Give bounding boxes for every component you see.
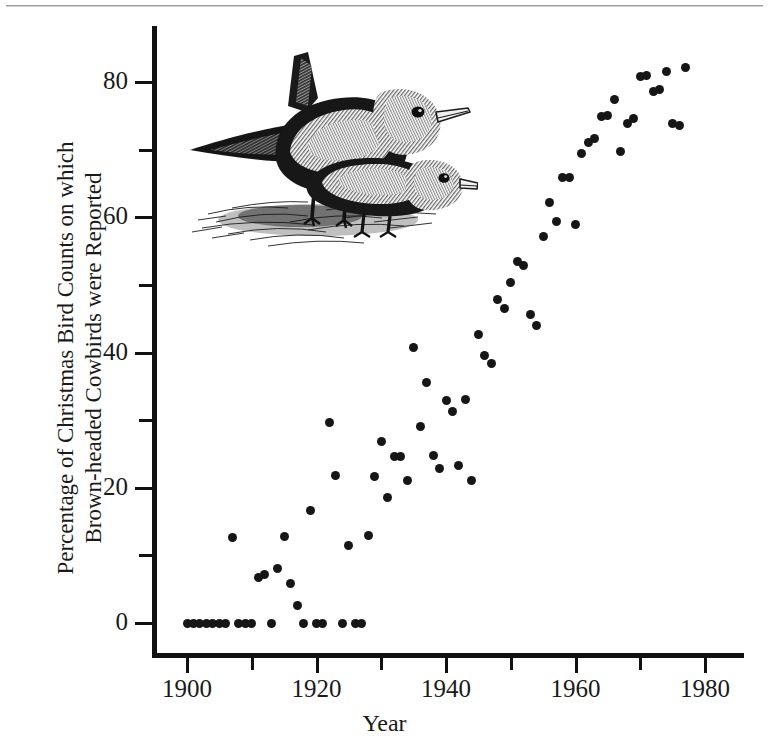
scatter-point: [532, 321, 541, 330]
scatter-point: [461, 395, 470, 404]
x-tick-label: 1980: [660, 676, 750, 702]
x-tick-major: [575, 658, 578, 673]
x-tick-minor: [510, 658, 513, 670]
x-tick-major: [186, 658, 189, 673]
x-axis-line: [152, 653, 744, 658]
scatter-point: [577, 149, 586, 158]
scatter-point: [642, 71, 651, 80]
y-tick-minor: [139, 284, 152, 287]
figure-page: 020406080 19001920194019601980 Percentag…: [0, 0, 769, 748]
scatter-point: [344, 541, 353, 550]
scatter-point: [675, 121, 684, 130]
scatter-point: [681, 63, 690, 72]
scatter-point: [247, 619, 256, 628]
scatter-point: [377, 437, 386, 446]
scatter-point: [480, 351, 489, 360]
scatter-point: [519, 261, 528, 270]
y-tick-major: [135, 622, 152, 625]
scatter-point: [506, 278, 515, 287]
scatter-point: [662, 67, 671, 76]
scatter-point: [416, 422, 425, 431]
scatter-plot-area: [152, 26, 744, 653]
scatter-point: [526, 310, 535, 319]
scatter-point: [403, 476, 412, 485]
scatter-point: [267, 619, 276, 628]
scatter-point: [539, 232, 548, 241]
scatter-point: [221, 619, 230, 628]
scatter-point: [306, 506, 315, 515]
scatter-point: [442, 396, 451, 405]
scatter-point: [357, 619, 366, 628]
scatter-point: [655, 85, 664, 94]
x-tick-label: 1900: [142, 676, 232, 702]
y-tick-minor: [139, 149, 152, 152]
scatter-point: [565, 173, 574, 182]
x-tick-major: [316, 658, 319, 673]
scatter-point: [500, 304, 509, 313]
x-tick-minor: [380, 658, 383, 670]
scatter-point: [370, 472, 379, 481]
y-tick-major: [135, 352, 152, 355]
x-tick-label: 1960: [531, 676, 621, 702]
y-tick-major: [135, 216, 152, 219]
scatter-point: [228, 533, 237, 542]
scatter-point: [474, 330, 483, 339]
scatter-point: [396, 452, 405, 461]
scatter-point: [364, 531, 373, 540]
x-tick-label: 1940: [401, 676, 491, 702]
scatter-point: [629, 114, 638, 123]
scatter-point: [293, 601, 302, 610]
y-tick-minor: [139, 554, 152, 557]
scatter-point: [610, 95, 619, 104]
scatter-point: [603, 111, 612, 120]
scatter-point: [571, 220, 580, 229]
scatter-point: [273, 564, 282, 573]
scatter-point: [286, 579, 295, 588]
scatter-point: [545, 198, 554, 207]
scatter-point: [383, 493, 392, 502]
scatter-point: [616, 147, 625, 156]
scatter-point: [552, 217, 561, 226]
x-tick-major: [445, 658, 448, 673]
scatter-point: [318, 619, 327, 628]
scatter-point: [409, 343, 418, 352]
scatter-point: [325, 418, 334, 427]
x-tick-label: 1920: [272, 676, 362, 702]
scatter-point: [331, 471, 340, 480]
x-tick-minor: [251, 658, 254, 670]
y-tick-minor: [139, 419, 152, 422]
y-tick-major: [135, 81, 152, 84]
scatter-point: [338, 619, 347, 628]
scatter-point: [493, 295, 502, 304]
scatter-point: [467, 476, 476, 485]
scatter-point: [590, 134, 599, 143]
scatter-point: [422, 378, 431, 387]
scatter-point: [260, 570, 269, 579]
scatter-point: [454, 461, 463, 470]
scatter-point: [280, 532, 289, 541]
scatter-point: [487, 359, 496, 368]
y-axis-title: Percentage of Christmas Bird Counts on w…: [52, 48, 108, 668]
x-axis-title: Year: [0, 710, 769, 737]
scatter-figure: 020406080 19001920194019601980 Percentag…: [0, 0, 769, 748]
scatter-point: [435, 464, 444, 473]
scatter-point: [299, 619, 308, 628]
y-tick-major: [135, 487, 152, 490]
scatter-point: [448, 407, 457, 416]
x-tick-major: [704, 658, 707, 673]
x-tick-minor: [639, 658, 642, 670]
scatter-point: [429, 451, 438, 460]
